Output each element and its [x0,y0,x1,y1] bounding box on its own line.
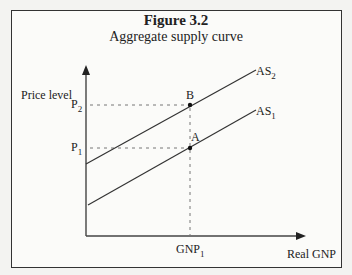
gnp1-label: GNP1 [176,242,205,259]
point-a-label: A [191,130,200,145]
as2-curve [86,70,256,164]
p1-label: P1 [71,140,82,157]
as2-label: AS2 [256,64,276,81]
as1-label: AS1 [256,104,276,121]
point-b-marker [188,103,192,107]
point-b-label: B [186,88,194,103]
y-axis-arrow-icon [82,65,90,75]
x-axis-label: Real GNP [287,247,336,262]
point-a-marker [188,146,192,150]
y-axis-label: Price level [21,88,72,103]
x-axis-arrow-icon [296,232,306,240]
p2-label: P2 [71,97,82,114]
diagram-canvas [0,0,352,275]
as1-curve [88,110,256,205]
